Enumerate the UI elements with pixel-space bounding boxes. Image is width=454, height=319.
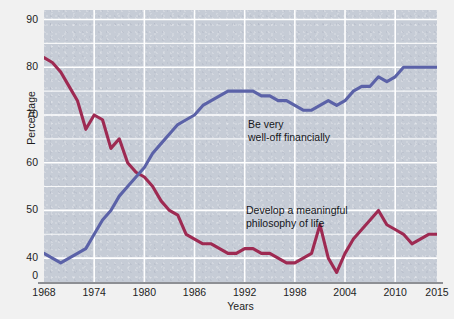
y-axis-tick-80: 80	[8, 60, 38, 72]
x-axis-tick-2004: 2004	[323, 286, 367, 298]
y-axis-tick-40: 40	[8, 251, 38, 263]
chart-figure: 0405060708090 Percentage Be very well-of…	[0, 0, 454, 319]
x-axis-tick-1998: 1998	[273, 286, 317, 298]
x-axis-line	[38, 282, 443, 284]
x-axis-tick-2015: 2015	[415, 286, 454, 298]
x-axis-tick-1992: 1992	[223, 286, 267, 298]
x-axis-tick-2010: 2010	[373, 286, 417, 298]
series-lines	[44, 10, 437, 282]
annotation-develop-a-meaningful-philosophy-of-life: Develop a meaningful philosophy of life	[246, 204, 348, 229]
y-axis-tick-0: 0	[8, 269, 38, 281]
x-axis-title: Years	[44, 300, 437, 312]
y-axis-tick-90: 90	[8, 13, 38, 25]
annotation-line-1: Be very	[248, 118, 330, 131]
x-axis-tick-1968: 1968	[22, 286, 66, 298]
plot-area: Be very well-off financially Develop a m…	[44, 10, 437, 282]
x-axis-tick-1980: 1980	[122, 286, 166, 298]
annotation-line-1: Develop a meaningful	[246, 204, 348, 217]
annotation-be-very-well-off-financially: Be very well-off financially	[248, 118, 330, 143]
y-axis-tick-50: 50	[8, 203, 38, 215]
x-axis-tick-1986: 1986	[173, 286, 217, 298]
y-axis-title: Percentage	[25, 73, 37, 163]
series-line-1	[44, 67, 437, 263]
annotation-line-2: philosophy of life	[246, 217, 348, 230]
annotation-line-2: well-off financially	[248, 131, 330, 144]
x-axis-tick-1974: 1974	[72, 286, 116, 298]
